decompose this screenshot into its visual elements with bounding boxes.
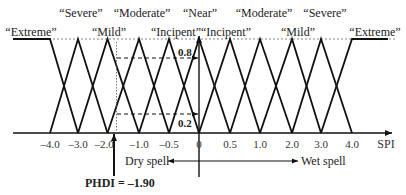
mf-moderate-dry (108, 39, 170, 133)
label-mild-wet: “Mild” (281, 26, 315, 38)
mf-extreme-wet (321, 39, 388, 133)
label-extreme-wet: “Extreme” (349, 26, 400, 38)
label-moderate-dry: “Moderate” (114, 7, 171, 19)
tick-label: –3.0 (68, 139, 87, 150)
tick-label: –2.0 (94, 139, 113, 150)
tick-label: 0 (196, 139, 202, 150)
tick-label: 1.0 (253, 139, 267, 150)
tick-label: 3.0 (314, 139, 328, 150)
label-near: “Near” (183, 7, 217, 19)
level-0.8-label: 0.8 (178, 46, 192, 58)
label-severe-wet: “Severe” (303, 7, 346, 19)
level-0.2-label: 0.2 (178, 117, 192, 129)
mf-mild-dry (78, 39, 139, 133)
label-moderate-wet: “Moderate” (236, 7, 293, 19)
mf-severe-wet (292, 39, 352, 133)
tick-label: 0.5 (223, 139, 237, 150)
tick-label: –4.0 (40, 139, 59, 150)
wet-spell-label: Wet spell (301, 155, 346, 167)
membership-functions (13, 39, 388, 133)
label-incipient-dry: “Incipent” (151, 26, 201, 38)
mf-extreme-dry (13, 39, 78, 133)
tick-label: 4.0 (345, 139, 359, 150)
label-extreme-dry: “Extreme” (5, 26, 56, 38)
axis-label-spi: SPI (377, 139, 394, 150)
tick-label: –0.5 (159, 139, 178, 150)
mf-moderate-wet (230, 39, 292, 133)
label-severe-dry: “Severe” (59, 7, 102, 19)
mf-mild-wet (260, 39, 321, 133)
tick-label: –1.0 (129, 139, 148, 150)
tick-label: 2.0 (285, 139, 299, 150)
label-mild-dry: “Mild” (92, 26, 126, 38)
phdi-label: PHDI = –1.90 (85, 177, 155, 189)
label-incipient-wet: “Incipent” (201, 26, 251, 38)
fuzzy-membership-diagram: “Severe” “Moderate” “Near” “Moderate” “S… (0, 0, 406, 195)
dry-spell-label: Dry spell (125, 155, 169, 167)
mf-incipient-wet (199, 39, 260, 133)
mf-severe-dry (50, 39, 108, 133)
